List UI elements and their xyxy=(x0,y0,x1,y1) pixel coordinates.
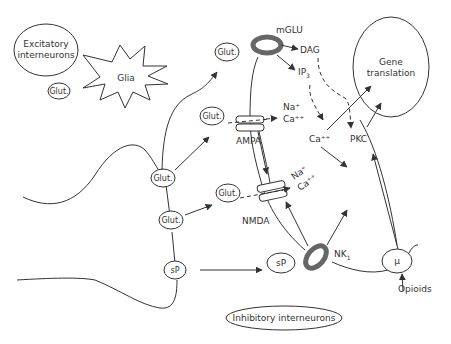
excitatory-interneurons-node: Excitatory interneurons xyxy=(14,24,78,76)
glia-label: Glia xyxy=(117,73,135,83)
dag-to-pkc-dashed-arrow xyxy=(318,58,351,128)
axon-segment-2 xyxy=(172,232,175,263)
glut-top-node: Glut. xyxy=(215,43,239,61)
svg-text:Glut.: Glut. xyxy=(218,189,237,198)
svg-text:Glut.: Glut. xyxy=(153,174,172,183)
dorsal-neuron-bottom-contour xyxy=(332,262,388,272)
svg-text:Glut.: Glut. xyxy=(217,48,236,57)
diagram-canvas: Excitatory interneurons Glia Glut. Glut.… xyxy=(0,0,451,344)
ip3-label: IP3 xyxy=(298,67,310,79)
svg-text:sP: sP xyxy=(171,266,180,275)
nmda-ion-flow-arrow xyxy=(282,188,290,190)
gene-label-line2: translation xyxy=(367,68,415,78)
svg-text:sP: sP xyxy=(276,258,287,268)
dag-label: DAG xyxy=(300,45,320,55)
ca-downstream-arrow xyxy=(321,147,347,167)
glia-node: Glia xyxy=(83,45,168,108)
glut-terminal-2-node: Glut. xyxy=(159,211,183,229)
arrow-to-glut-ampa xyxy=(175,137,209,170)
ca-internal-label: Ca⁺⁺ xyxy=(309,134,331,144)
svg-text:Glut.: Glut. xyxy=(202,112,221,121)
na-plus-1-label: Na⁺ xyxy=(283,102,300,112)
sp-terminal-node: sP xyxy=(164,261,186,279)
nk1-receptor: NK1 xyxy=(302,242,351,272)
dorsal-neuron-right-stub xyxy=(409,245,418,253)
excitatory-label-line2: interneurons xyxy=(17,50,74,60)
excitatory-label-line1: Excitatory xyxy=(23,39,69,49)
nk1-to-nmda-arrow xyxy=(286,202,308,246)
nmda-label: NMDA xyxy=(242,216,270,226)
mu-label: μ xyxy=(394,256,400,266)
opioids-label: Opioids xyxy=(398,284,432,294)
ampa-receptor: AMPA xyxy=(228,116,270,146)
mu-to-pkc-arrow xyxy=(373,154,399,253)
sp-released-node: sP xyxy=(267,253,295,273)
mu-opioid-receptor: μ xyxy=(382,249,412,273)
svg-text:Glut.: Glut. xyxy=(161,216,180,225)
glut-terminal-1-node: Glut. xyxy=(151,169,175,187)
pkc-label: PKC xyxy=(350,134,367,144)
afferent-lower-contour xyxy=(17,278,177,308)
nmda-receptor: NMDA xyxy=(240,180,288,226)
nk1-label: NK1 xyxy=(334,249,351,261)
ip3-to-ca-dashed-arrow xyxy=(310,85,323,120)
ca-to-gene-arrow xyxy=(327,86,371,130)
ampa-ion-flow-arrow xyxy=(266,118,277,119)
mglu-to-ip3-arrow xyxy=(277,55,295,70)
gene-label-line1: Gene xyxy=(379,57,403,67)
arrow-to-glut-nmda xyxy=(185,205,212,215)
svg-text:Glut.: Glut. xyxy=(49,87,68,96)
glut-left-node: Glut. xyxy=(48,83,70,99)
glut-ampa-node: Glut. xyxy=(200,107,224,125)
nk1-downstream-arrow xyxy=(327,210,347,245)
afferent-upper-contour xyxy=(23,145,160,204)
gene-translation-node: Gene translation xyxy=(353,17,429,117)
mglu-label: mGLU xyxy=(276,25,303,35)
mglu-to-dag-arrow xyxy=(281,45,298,49)
inhibitory-interneurons-node: Inhibitory interneurons xyxy=(226,306,342,330)
glut-nmda-node: Glut. xyxy=(216,184,240,202)
ca-plus-1-label: Ca⁺⁺ xyxy=(283,114,305,124)
ampa-label: AMPA xyxy=(236,136,262,146)
ampa-to-nmda-arrow xyxy=(258,132,267,174)
inhibitory-label: Inhibitory interneurons xyxy=(233,313,336,323)
